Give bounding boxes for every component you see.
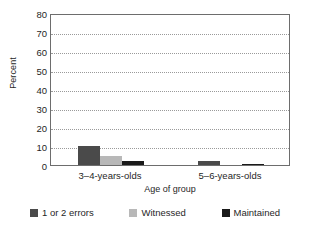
- x-axis-title: Age of group: [50, 184, 290, 194]
- plot-area: [50, 14, 290, 166]
- chart-legend: 1 or 2 errorsWitnessedMaintained: [30, 208, 280, 218]
- y-axis-tick-labels: 01020304050607080: [22, 14, 47, 166]
- bar-series-container: [51, 15, 289, 165]
- y-tick-label: 10: [22, 143, 47, 152]
- bar-chart-figure: Percent 01020304050607080 3–4-years-olds…: [0, 0, 311, 236]
- legend-swatch-icon: [129, 209, 137, 217]
- bar: [100, 156, 122, 166]
- y-tick-label: 40: [22, 86, 47, 95]
- x-tick-label: 5–6-years-olds: [170, 170, 290, 181]
- legend-item[interactable]: Maintained: [222, 208, 280, 218]
- bar-group: [78, 15, 144, 165]
- y-tick-label: 50: [22, 67, 47, 76]
- y-tick-label: 0: [22, 162, 47, 171]
- bar: [122, 161, 144, 165]
- legend-swatch-icon: [30, 209, 38, 217]
- legend-label: Witnessed: [141, 208, 185, 218]
- legend-label: Maintained: [234, 208, 280, 218]
- y-axis-title: Percent: [8, 38, 18, 108]
- legend-label: 1 or 2 errors: [42, 208, 94, 218]
- legend-swatch-icon: [222, 209, 230, 217]
- bar: [198, 161, 220, 165]
- legend-item[interactable]: 1 or 2 errors: [30, 208, 94, 218]
- y-tick-label: 30: [22, 105, 47, 114]
- x-tick-label: 3–4-years-olds: [50, 170, 170, 181]
- bar-group: [198, 15, 264, 165]
- x-axis-tick-labels: 3–4-years-olds5–6-years-olds: [50, 170, 290, 184]
- bar: [242, 164, 264, 165]
- bar: [78, 146, 100, 165]
- y-tick-label: 70: [22, 29, 47, 38]
- y-tick-label: 60: [22, 48, 47, 57]
- y-tick-label: 20: [22, 124, 47, 133]
- y-tick-label: 80: [22, 10, 47, 19]
- legend-item[interactable]: Witnessed: [129, 208, 185, 218]
